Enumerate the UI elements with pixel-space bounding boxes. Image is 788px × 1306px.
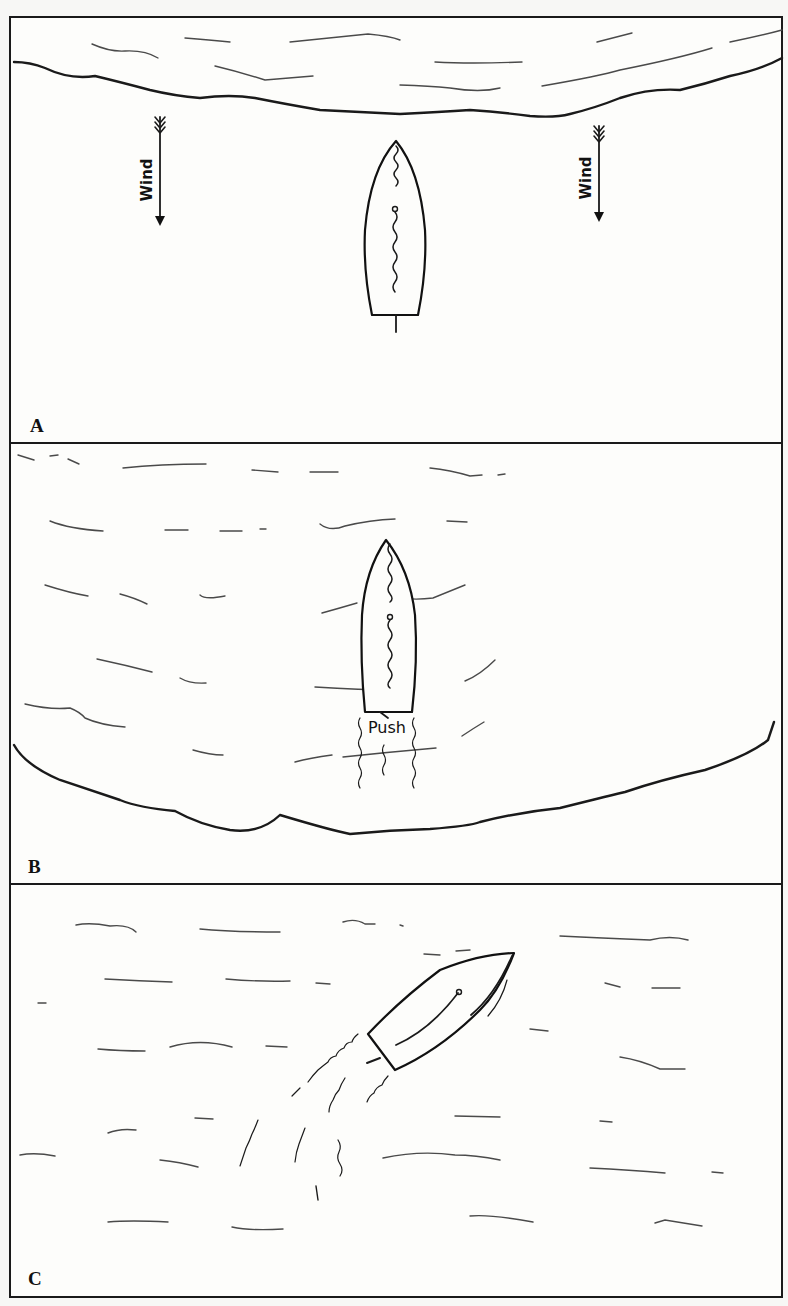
- wind-label-left: Wind: [138, 158, 156, 201]
- panel-label-a: A: [30, 415, 44, 436]
- panel-label-c: C: [28, 1268, 42, 1289]
- sailing-diagram: Wind Wind A: [0, 0, 788, 1306]
- panel-label-b: B: [28, 856, 41, 877]
- wind-label-right: Wind: [577, 156, 595, 199]
- push-label: Push: [368, 718, 406, 737]
